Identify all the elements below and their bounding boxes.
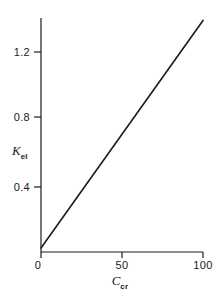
y-tick-label-0.4: 0.4 bbox=[2, 181, 30, 193]
y-tick-label-0.8: 0.8 bbox=[2, 111, 30, 123]
y-axis-title: Kel bbox=[12, 143, 28, 161]
x-axis-title-base: C bbox=[112, 273, 121, 288]
x-axis-title-subscript: cr bbox=[120, 282, 128, 291]
x-tick-label-0: 0 bbox=[35, 259, 41, 271]
x-axis-title: Ccr bbox=[112, 273, 129, 291]
x-tick-label-50: 50 bbox=[116, 259, 129, 271]
x-tick-label-100: 100 bbox=[193, 259, 212, 271]
chart-figure: 1.2 0.8 0.4 0 50 100 Kel Ccr bbox=[0, 0, 219, 296]
data-line-kel bbox=[41, 20, 203, 248]
y-tick-label-1.2: 1.2 bbox=[2, 46, 30, 58]
y-axis-title-subscript: el bbox=[21, 152, 28, 161]
plot-canvas bbox=[0, 0, 219, 296]
y-axis-title-base: K bbox=[12, 143, 21, 158]
